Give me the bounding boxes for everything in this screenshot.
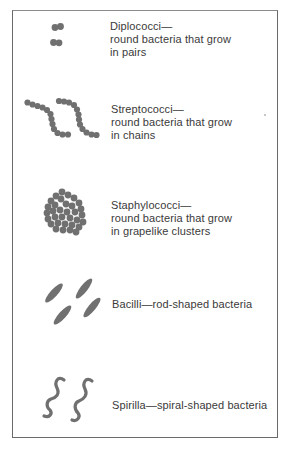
bacilli-icon xyxy=(43,276,103,326)
streptococci-label: Streptococci— round bacteria that grow i… xyxy=(111,103,232,142)
staphylococci-title: Staphylococci— xyxy=(111,199,232,212)
bacilli-label: Bacilli—rod-shaped bacteria xyxy=(112,298,252,311)
scan-speck xyxy=(264,114,266,116)
spirilla-title: Spirilla—spiral-shaped bacteria xyxy=(112,399,267,412)
staphylococci-description-line2: in grapelike clusters xyxy=(111,225,232,238)
diplococci-description-line2: in pairs xyxy=(110,46,231,59)
diplococci-description-line1: round bacteria that grow xyxy=(110,33,231,46)
diplococci-title: Diplococci— xyxy=(110,20,231,33)
streptococci-description-line2: in chains xyxy=(111,129,232,142)
staphylococci-icon xyxy=(44,189,87,236)
streptococci-description-line1: round bacteria that grow xyxy=(111,116,232,129)
spirilla-label: Spirilla—spiral-shaped bacteria xyxy=(112,399,267,412)
streptococci-icon xyxy=(24,98,99,138)
diplococci-icon xyxy=(50,23,64,46)
bacilli-title: Bacilli—rod-shaped bacteria xyxy=(112,298,252,311)
spirilla-icon xyxy=(44,378,92,420)
staphylococci-label: Staphylococci— round bacteria that grow … xyxy=(111,199,232,238)
staphylococci-description-line1: round bacteria that grow xyxy=(111,212,232,225)
diplococci-label: Diplococci— round bacteria that grow in … xyxy=(110,20,231,59)
streptococci-title: Streptococci— xyxy=(111,103,232,116)
